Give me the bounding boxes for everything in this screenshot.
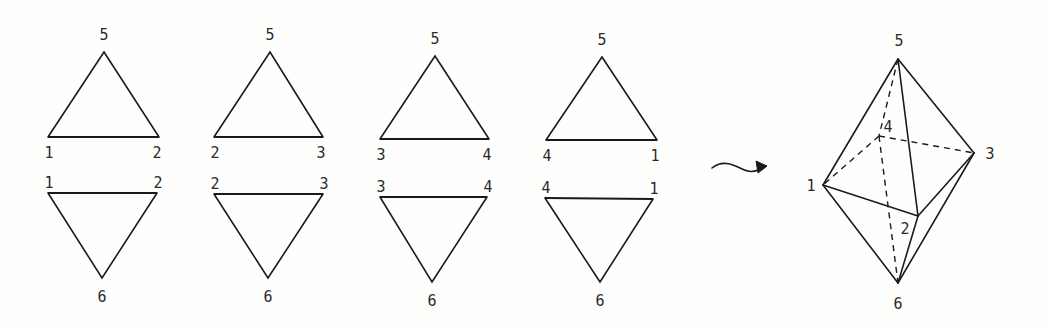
vertex-label-top: 5 [265, 26, 274, 44]
vertex-label: 3 [376, 178, 385, 196]
lower-triangle-sides [214, 194, 323, 278]
vertex-label-top: 5 [99, 26, 108, 44]
vertex-label-top: 5 [597, 31, 606, 49]
vertex-label-bottom: 6 [97, 288, 106, 306]
vertex-label-bottom: 6 [427, 292, 436, 310]
vertex-label: 2 [210, 175, 219, 193]
vertex-label: 4 [541, 179, 550, 197]
visible-edge [898, 153, 974, 283]
vertex-label-bottom: 6 [263, 288, 272, 306]
octahedron-vertex-label: 3 [985, 145, 994, 163]
visible-edge [898, 59, 918, 216]
upper-triangle-sides [380, 56, 489, 139]
vertex-label: 1 [44, 144, 53, 162]
upper-triangle-sides [214, 52, 323, 137]
face-pair-4: 541416 [541, 31, 659, 310]
visible-edge [823, 185, 898, 283]
face-pair-3: 534346 [376, 30, 492, 310]
vertex-label-bottom: 6 [595, 292, 604, 310]
upper-triangle-sides [48, 52, 159, 137]
wavy-arrow-icon [712, 161, 767, 173]
visible-edge [918, 153, 974, 216]
vertex-label: 4 [542, 147, 551, 165]
hidden-edge [823, 136, 879, 185]
visible-edge [823, 185, 918, 216]
lower-triangle-sides [48, 193, 157, 278]
octahedron-vertex-label: 6 [893, 295, 902, 313]
lower-triangle-base [545, 198, 653, 199]
vertex-label: 4 [483, 178, 492, 196]
vertex-label: 2 [152, 144, 161, 162]
hidden-edge [879, 136, 974, 153]
octahedron-vertex-label: 5 [894, 32, 903, 50]
diagram-canvas: 512126523236534346541416123456 [0, 0, 1047, 329]
vertex-label: 1 [650, 147, 659, 165]
octahedron: 123456 [806, 32, 994, 313]
face-pair-2: 523236 [210, 26, 328, 306]
face-pair-1: 512126 [44, 26, 162, 306]
vertex-label: 3 [319, 175, 328, 193]
vertex-label: 3 [376, 146, 385, 164]
upper-triangle-sides [546, 57, 657, 140]
octahedron-net-diagram: 512126523236534346541416123456 [0, 0, 1047, 329]
octahedron-vertex-label: 2 [900, 220, 909, 238]
vertex-label: 3 [316, 144, 325, 162]
vertex-label: 2 [210, 144, 219, 162]
vertex-label: 1 [44, 174, 53, 192]
vertex-label-top: 5 [430, 30, 439, 48]
vertex-label: 4 [482, 146, 491, 164]
visible-edge [898, 59, 974, 153]
vertex-label: 2 [153, 174, 162, 192]
lower-triangle-sides [545, 198, 653, 282]
vertex-label: 1 [649, 180, 658, 198]
lower-triangle-sides [380, 197, 487, 282]
octahedron-vertex-label: 4 [883, 118, 892, 136]
octahedron-vertex-label: 1 [806, 177, 815, 195]
